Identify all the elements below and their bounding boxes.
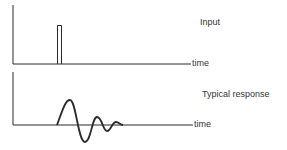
input-label: Input [200,17,220,27]
input-time-label: time [192,58,209,68]
response-time-label: time [194,119,211,129]
diagram-canvas [0,0,287,150]
input-panel [13,5,191,64]
response-panel [13,72,193,142]
impulse-pulse [58,26,62,65]
damped-oscillation-curve [57,100,123,142]
response-label: Typical response [202,89,270,99]
